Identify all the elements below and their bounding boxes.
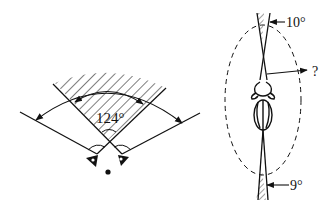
lateral-field-diagram: 10° ? 9° — [225, 13, 318, 200]
insect-icon — [252, 82, 275, 130]
nose-dot — [105, 169, 110, 174]
binocular-field-diagram: 124° — [20, 73, 200, 175]
overlap-angle-label: 124° — [96, 110, 125, 126]
front-blind-angle-label: 10° — [286, 15, 306, 30]
lateral-angle-label: ? — [312, 64, 318, 79]
right-eye-icon — [118, 155, 129, 166]
lateral-arrow — [267, 70, 307, 74]
diagram-canvas: 124° 10° ? 9° — [0, 0, 335, 215]
left-eye-icon — [86, 155, 98, 167]
left-eye-outer-line — [20, 112, 97, 154]
rear-blind-angle-label: 9° — [290, 178, 303, 193]
